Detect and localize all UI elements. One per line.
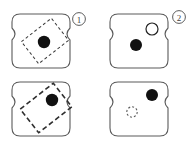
figure-container: 1 2 [0, 0, 195, 148]
technical-figure: 1 2 [0, 0, 195, 148]
group-label-2-text: 2 [177, 13, 182, 23]
filled-circle-marker [46, 94, 58, 106]
filled-circle-marker [130, 39, 142, 51]
group-label-1-text: 1 [77, 15, 82, 25]
panel-top-right [110, 14, 168, 68]
panel-bottom-left [12, 82, 72, 136]
hollow-circle-marker [146, 23, 158, 35]
group-label-1: 1 [73, 13, 86, 26]
spool-outline-bottom-right [110, 82, 168, 136]
panel-top-left [12, 14, 70, 68]
filled-circle-marker [146, 89, 158, 101]
filled-circle-marker [38, 36, 50, 48]
panel-bottom-right [110, 82, 168, 136]
group-label-2: 2 [173, 11, 186, 24]
